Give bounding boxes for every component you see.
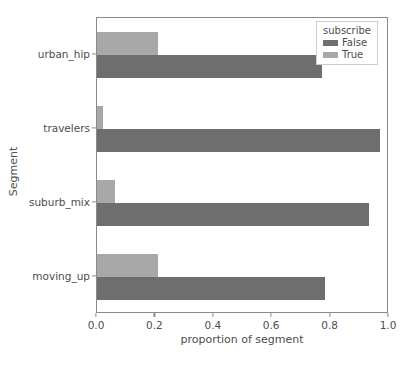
legend-swatch-false-icon bbox=[323, 40, 338, 46]
legend-swatch-true-icon bbox=[323, 52, 338, 58]
bar-moving_up-false bbox=[97, 277, 325, 300]
x-tick-mark-1.0 bbox=[387, 313, 388, 317]
x-tick-label-0.8: 0.8 bbox=[321, 319, 338, 331]
legend-entry-false: False bbox=[323, 37, 371, 48]
x-tick-mark-0.6 bbox=[271, 313, 272, 317]
bar-suburb_mix-true bbox=[97, 180, 115, 203]
x-axis-label: proportion of segment bbox=[96, 333, 388, 346]
legend-entry-true: True bbox=[323, 49, 371, 60]
legend-label-true: True bbox=[342, 49, 363, 60]
y-axis-tick-labels: urban_hiptravelerssuburb_mixmoving_up bbox=[0, 17, 90, 313]
legend-title: subscribe bbox=[323, 25, 371, 36]
y-tick-label-urban_hip: urban_hip bbox=[38, 48, 90, 60]
bar-urban_hip-false bbox=[97, 55, 322, 78]
bar-travelers-true bbox=[97, 106, 103, 129]
y-tick-label-moving_up: moving_up bbox=[32, 270, 90, 282]
bar-moving_up-true bbox=[97, 254, 158, 277]
legend-label-false: False bbox=[342, 37, 367, 48]
x-tick-label-0.0: 0.0 bbox=[88, 319, 105, 331]
chart-figure: Segment urban_hiptravelerssuburb_mixmovi… bbox=[0, 0, 411, 369]
bar-suburb_mix-false bbox=[97, 203, 369, 226]
x-tick-mark-0.0 bbox=[95, 313, 96, 317]
x-tick-label-1.0: 1.0 bbox=[380, 319, 397, 331]
x-tick-label-0.4: 0.4 bbox=[204, 319, 221, 331]
x-tick-label-0.2: 0.2 bbox=[146, 319, 163, 331]
bar-urban_hip-true bbox=[97, 32, 158, 55]
legend: subscribe FalseTrue bbox=[316, 21, 378, 65]
x-tick-label-0.6: 0.6 bbox=[263, 319, 280, 331]
x-tick-mark-0.2 bbox=[154, 313, 155, 317]
x-axis-ticks: 0.00.20.40.60.81.0 bbox=[96, 313, 388, 333]
y-tick-label-travelers: travelers bbox=[43, 122, 90, 134]
x-tick-mark-0.8 bbox=[329, 313, 330, 317]
legend-entries: FalseTrue bbox=[323, 37, 371, 60]
y-tick-label-suburb_mix: suburb_mix bbox=[29, 196, 90, 208]
bar-travelers-false bbox=[97, 129, 380, 152]
x-tick-mark-0.4 bbox=[212, 313, 213, 317]
